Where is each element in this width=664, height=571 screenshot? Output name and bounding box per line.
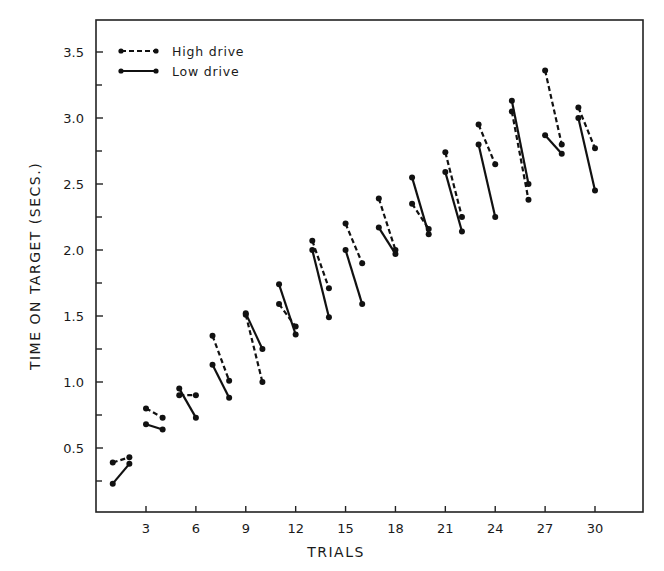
data-point: [293, 331, 299, 337]
y-axis-title: TIME ON TARGET (SECS.): [27, 162, 43, 371]
data-point: [193, 392, 199, 398]
data-point: [426, 231, 432, 237]
data-point: [426, 226, 432, 232]
legend-dot: [153, 48, 158, 53]
data-point: [492, 161, 498, 167]
data-point: [143, 421, 149, 427]
y-tick-label: 1.0: [63, 375, 84, 390]
data-point: [442, 149, 448, 155]
data-point: [309, 238, 315, 244]
data-point: [143, 405, 149, 411]
data-point: [542, 67, 548, 73]
legend-dot: [153, 68, 158, 73]
data-point: [575, 104, 581, 110]
data-point: [326, 314, 332, 320]
data-point: [492, 214, 498, 220]
data-point: [326, 285, 332, 291]
data-point: [343, 247, 349, 253]
data-point: [343, 221, 349, 227]
data-point: [176, 386, 182, 392]
data-point: [160, 427, 166, 433]
legend-dot: [118, 48, 123, 53]
x-tick-label: 9: [242, 521, 250, 536]
data-point: [293, 324, 299, 330]
data-point: [376, 196, 382, 202]
data-point: [226, 378, 232, 384]
data-point: [259, 379, 265, 385]
x-tick-label: 18: [387, 521, 404, 536]
x-tick-label: 21: [437, 521, 454, 536]
data-point: [210, 362, 216, 368]
y-tick-label: 2.0: [63, 243, 84, 258]
data-point: [592, 188, 598, 194]
data-point: [359, 301, 365, 307]
x-tick-label: 15: [337, 521, 354, 536]
data-point: [409, 201, 415, 207]
x-tick-label: 3: [142, 521, 150, 536]
data-point: [210, 333, 216, 339]
data-point: [276, 301, 282, 307]
data-point: [559, 151, 565, 157]
legend-label: High drive: [172, 44, 244, 59]
data-point: [509, 98, 515, 104]
data-point: [126, 461, 132, 467]
data-point: [110, 481, 116, 487]
data-point: [126, 454, 132, 460]
data-point: [542, 132, 548, 138]
data-point: [525, 197, 531, 203]
x-tick-label: 24: [487, 521, 504, 536]
data-point: [259, 346, 265, 352]
x-tick-label: 30: [587, 521, 604, 536]
x-tick-label: 27: [537, 521, 554, 536]
chart-figure: 0.51.01.52.02.53.03.5 36912151821242730 …: [0, 0, 664, 571]
data-point: [459, 229, 465, 235]
data-point: [193, 415, 199, 421]
data-point: [226, 395, 232, 401]
x-tick-label: 6: [192, 521, 200, 536]
data-point: [110, 460, 116, 466]
data-point: [243, 312, 249, 318]
y-tick-label: 0.5: [63, 441, 84, 456]
y-tick-label: 1.5: [63, 309, 84, 324]
data-point: [509, 108, 515, 114]
data-point: [176, 392, 182, 398]
data-point: [442, 169, 448, 175]
data-point: [459, 214, 465, 220]
x-tick-label: 12: [287, 521, 304, 536]
data-point: [409, 174, 415, 180]
data-point: [392, 247, 398, 253]
data-point: [359, 260, 365, 266]
x-axis-title: TRIALS: [306, 544, 365, 560]
data-point: [276, 281, 282, 287]
data-point: [592, 145, 598, 151]
legend-dot: [118, 68, 123, 73]
y-tick-label: 3.0: [63, 111, 84, 126]
data-point: [559, 141, 565, 147]
data-point: [376, 225, 382, 231]
y-tick-label: 2.5: [63, 177, 84, 192]
data-point: [476, 122, 482, 128]
legend-label: Low drive: [172, 64, 239, 79]
y-tick-label: 3.5: [63, 45, 84, 60]
data-point: [160, 415, 166, 421]
data-point: [476, 141, 482, 147]
data-point: [575, 115, 581, 121]
